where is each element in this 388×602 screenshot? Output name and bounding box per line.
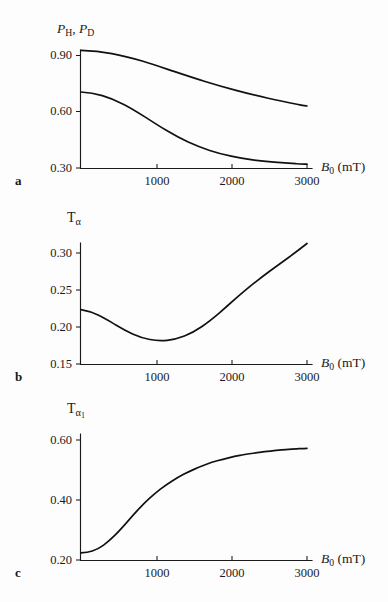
panel-b-ytick-label-0: 0.30 (38, 247, 72, 260)
panel-a-xtick-label-1: 2000 (210, 175, 254, 188)
panel-a-ytick-label-1: 0.60 (38, 105, 72, 118)
panel-b-ytick-label-1: 0.25 (38, 284, 72, 297)
panel-c-curve (81, 448, 307, 553)
panel-b-axes (81, 243, 313, 365)
panel-b-xtick-label-0: 1000 (135, 371, 179, 384)
panel-a-curve-pd (81, 92, 307, 164)
panel-c-xtick-label-0: 1000 (135, 567, 179, 580)
panel-a-xtick-label-0: 1000 (135, 175, 179, 188)
panel-a-curve-ph (81, 50, 307, 106)
panel-c-axes (81, 434, 313, 561)
panel-a-ytick-label-2: 0.30 (38, 162, 72, 175)
panel-b: Tα 0.30 0.25 0.20 0.15 1000 2000 3000 B0… (0, 195, 388, 392)
figure-container: PH, PD 0.90 0.60 0.30 1000 2000 3000 B0 … (0, 0, 388, 602)
panel-c-ytick-label-1: 0.40 (38, 494, 72, 507)
panel-a-xtick-label-2: 3000 (285, 175, 329, 188)
panel-b-ytick-label-3: 0.15 (38, 358, 72, 371)
panel-b-curve (81, 244, 307, 341)
panel-a-xlabel: B0 (mT) (321, 160, 365, 175)
panel-a: PH, PD 0.90 0.60 0.30 1000 2000 3000 B0 … (0, 0, 388, 200)
panel-c: Tα1 0.60 0.40 0.20 1000 2000 3000 B0 (mT… (0, 390, 388, 602)
panel-c-xtick-label-1: 2000 (210, 567, 254, 580)
panel-c-ytick-label-0: 0.60 (38, 434, 72, 447)
panel-a-letter: a (15, 174, 22, 187)
panel-a-ylabel: PH, PD (57, 22, 94, 37)
panel-c-xlabel: B0 (mT) (321, 552, 365, 567)
panel-b-letter: b (15, 370, 22, 383)
panel-b-xtick-label-1: 2000 (210, 371, 254, 384)
panel-b-ylabel: Tα (67, 211, 81, 227)
panel-c-xtick-label-2: 3000 (285, 567, 329, 580)
panel-b-xtick-label-2: 3000 (285, 371, 329, 384)
panel-c-ylabel: Tα1 (67, 402, 85, 421)
panel-a-ytick-label-0: 0.90 (38, 49, 72, 62)
panel-a-axes (81, 50, 313, 169)
panel-b-xlabel: B0 (mT) (321, 356, 365, 371)
panel-c-ytick-label-2: 0.20 (38, 554, 72, 567)
panel-b-ytick-label-2: 0.20 (38, 321, 72, 334)
panel-c-letter: c (15, 566, 21, 579)
